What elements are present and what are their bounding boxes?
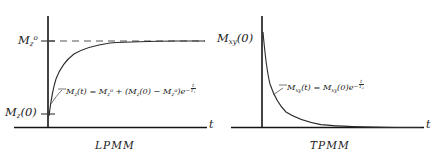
y-label-mxy-zero: Mxy(0) (217, 33, 253, 45)
exponent-tpmm: −tT2 (354, 80, 365, 90)
caption-tpmm: TPMM (310, 140, 350, 151)
x-axis-label-t-lpmm: t (209, 119, 213, 130)
formula-leader-line-tpmm (273, 88, 283, 95)
panel-tpmm: Mxy(0) Mxy(t) = Mxy(0)e−tT2 t TPMM (221, 0, 442, 161)
x-axis-label-t-tpmm: t (426, 119, 430, 130)
formula-lpmm: Mz(t) = Mzo + (Mz(0) − Mzo)e−tT1 (66, 84, 196, 97)
recovery-curve (49, 41, 205, 116)
y-label-mz-zero: Mz(0) (5, 107, 37, 119)
caption-lpmm: LPMM (95, 140, 135, 151)
y-label-mz-equilibrium: Mzo (18, 34, 38, 47)
panel-lpmm: Mzo Mz(0) Mz(t) = Mzo + (Mz(0) − Mzo)e−t… (0, 0, 221, 161)
exponent-lpmm: −tT1 (185, 84, 196, 94)
plot-area-lpmm (0, 0, 221, 161)
formula-tpmm: Mxy(t) = Mxy(0)e−tT2 (287, 80, 364, 93)
